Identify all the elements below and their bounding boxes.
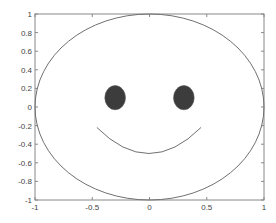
axes-frame xyxy=(35,14,264,200)
x-tick-label: 0.5 xyxy=(201,203,213,212)
y-tick-label: -0.8 xyxy=(18,177,32,186)
x-tick-label: -0.5 xyxy=(85,203,99,212)
x-tick-label: -1 xyxy=(31,203,39,212)
x-axis-ticks: -1-0.500.51 xyxy=(31,14,266,212)
smile-curve xyxy=(97,127,201,153)
right-eye xyxy=(174,86,195,110)
y-tick-label: -0.2 xyxy=(18,122,32,131)
plot-shapes xyxy=(35,14,264,200)
y-tick-label: 0 xyxy=(28,103,33,112)
x-tick-label: 1 xyxy=(262,203,267,212)
face-outline xyxy=(35,14,264,200)
y-tick-label: -0.4 xyxy=(18,140,32,149)
y-tick-label: -0.6 xyxy=(18,159,32,168)
y-tick-label: 0.6 xyxy=(21,47,33,56)
y-tick-label: 1 xyxy=(28,10,33,19)
y-tick-label: 0.8 xyxy=(21,29,33,38)
x-tick-label: 0 xyxy=(147,203,152,212)
y-tick-label: 0.2 xyxy=(21,84,33,93)
axes-box xyxy=(35,14,264,200)
y-tick-label: 0.4 xyxy=(21,66,33,75)
smiley-face-plot: -1-0.8-0.6-0.4-0.200.20.40.60.81 -1-0.50… xyxy=(0,0,276,223)
left-eye xyxy=(105,86,126,110)
